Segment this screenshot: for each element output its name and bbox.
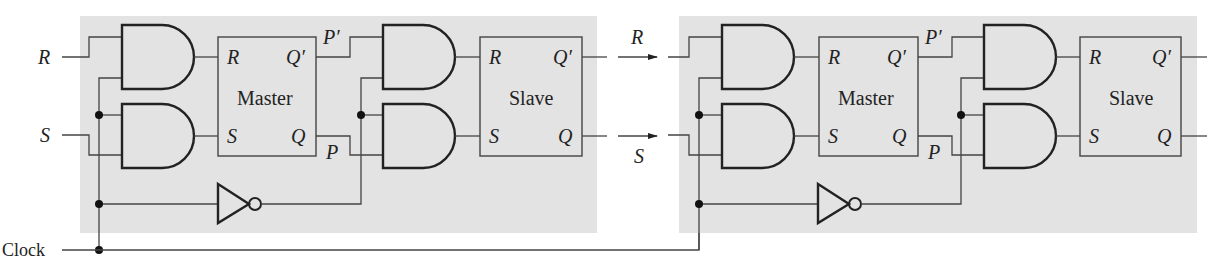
flip-flop-diagram: R S R Q′ Master S Q P′ P — [0, 0, 1221, 273]
master-s-label: S — [828, 125, 838, 147]
slave-q-label: Q — [558, 125, 573, 147]
p-prime-label: P′ — [322, 26, 340, 48]
stage-2: R Q′ Master S Q P′ P R Q′ Slave S Q — [668, 16, 1207, 250]
slave-title: Slave — [1109, 87, 1154, 109]
slave-q-label: Q — [1157, 125, 1172, 147]
stage-1: R S R Q′ Master S Q P′ P — [37, 16, 607, 254]
clock-label: Clock — [2, 240, 45, 260]
master-qp-label: Q′ — [887, 46, 906, 68]
junction-dot — [95, 200, 103, 208]
slave-title: Slave — [509, 87, 554, 109]
master-title: Master — [237, 87, 293, 109]
stage-2-panel — [679, 16, 1197, 233]
p-prime-label: P′ — [924, 26, 942, 48]
master-r-label: R — [226, 46, 239, 68]
stage-1-panel — [80, 16, 597, 233]
master-s-label: S — [227, 125, 237, 147]
p-label: P — [927, 141, 940, 163]
input-r-label: R — [37, 46, 50, 68]
slave-r-label: R — [488, 46, 501, 68]
master-qp-label: Q′ — [286, 46, 305, 68]
junction-dot — [357, 111, 365, 119]
slave-s-label: S — [1089, 125, 1099, 147]
junction-dot — [95, 111, 103, 119]
slave-qp-label: Q′ — [553, 46, 572, 68]
junction-dot — [695, 200, 703, 208]
link-s-label: S — [634, 145, 644, 167]
link-r-label: R — [630, 26, 643, 48]
junction-dot — [957, 111, 965, 119]
master-r-label: R — [827, 46, 840, 68]
input-s-label: S — [40, 124, 50, 146]
master-q-label: Q — [291, 125, 306, 147]
p-label: P — [325, 141, 338, 163]
slave-s-label: S — [489, 125, 499, 147]
slave-r-label: R — [1088, 46, 1101, 68]
master-title: Master — [838, 87, 894, 109]
master-q-label: Q — [892, 125, 907, 147]
junction-dot — [695, 111, 703, 119]
slave-qp-label: Q′ — [1152, 46, 1171, 68]
